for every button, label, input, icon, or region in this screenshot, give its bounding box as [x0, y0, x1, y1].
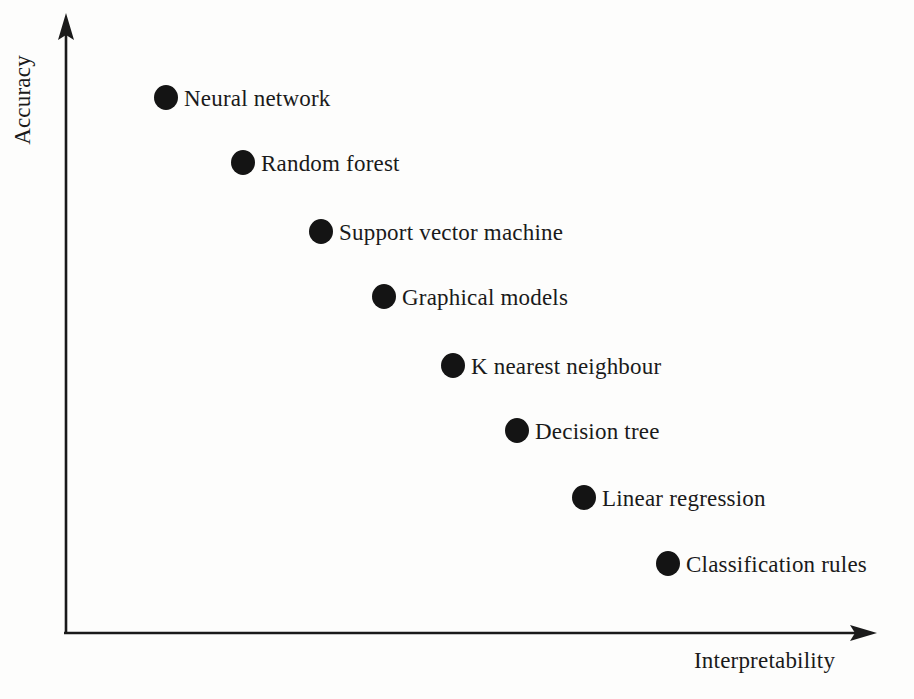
data-point-marker-icon: [441, 353, 465, 378]
axes-group: [0, 0, 914, 699]
y-axis-title: Accuracy: [0, 45, 46, 155]
data-point-marker-icon: [505, 418, 529, 443]
x-axis-title-text: Interpretability: [694, 648, 835, 673]
data-point: Classification rules: [656, 551, 680, 576]
data-point-marker-icon: [154, 85, 178, 110]
x-axis-title: Interpretability: [694, 648, 835, 673]
data-point: Decision tree: [505, 418, 529, 443]
data-point: Neural network: [154, 85, 178, 110]
data-point: Graphical models: [372, 284, 396, 309]
x-axis-arrow-icon: [850, 625, 877, 641]
data-point-marker-icon: [372, 284, 396, 309]
data-point-marker-icon: [656, 551, 680, 576]
data-point-label: K nearest neighbour: [471, 354, 661, 377]
data-point: Linear regression: [572, 485, 596, 510]
data-point-label: Graphical models: [402, 285, 568, 308]
data-point-label: Classification rules: [686, 552, 867, 575]
data-point-marker-icon: [572, 485, 596, 510]
data-point: K nearest neighbour: [441, 353, 465, 378]
scatter-chart: Accuracy Interpretability Neural network…: [0, 0, 914, 699]
y-axis-title-text: Accuracy: [10, 55, 35, 145]
data-point-marker-icon: [231, 150, 255, 175]
data-point-label: Support vector machine: [339, 220, 563, 243]
data-point-label: Random forest: [261, 151, 400, 174]
data-point-label: Decision tree: [535, 419, 660, 442]
y-axis-arrow-icon: [58, 13, 74, 40]
data-point-label: Neural network: [184, 86, 331, 109]
data-point: Random forest: [231, 150, 255, 175]
data-point-label: Linear regression: [602, 486, 766, 509]
data-point-marker-icon: [309, 219, 333, 244]
data-point: Support vector machine: [309, 219, 333, 244]
